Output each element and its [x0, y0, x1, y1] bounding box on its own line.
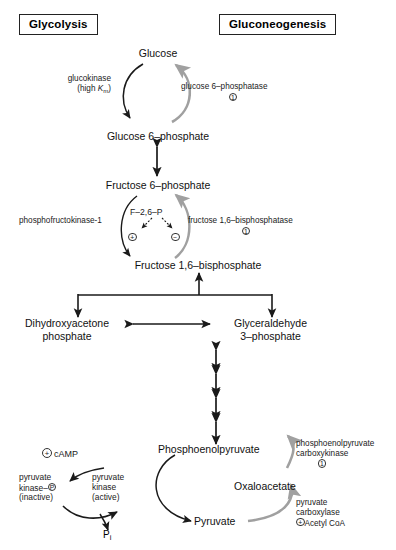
pathway-diagram: Glycolysis Gluconeogenesis Glucose Gluco… [0, 0, 396, 550]
metabolite-pyruvate: Pyruvate [194, 515, 235, 527]
phosphate-circle-icon: P [48, 483, 57, 492]
enzyme-number-circle-icon: 1 [242, 227, 251, 236]
pep-to-pyruvate-glycolysis-arrow [156, 455, 191, 521]
plus-circle-icon: + [128, 233, 137, 242]
enzyme-pyruvate-kinase-active: pyruvate kinase (active) [92, 473, 154, 503]
dhap-line-2: phosphate [12, 330, 122, 343]
glucokinase-line-2: (high Km) [28, 84, 111, 95]
glycolysis-header-box: Glycolysis [19, 14, 98, 35]
pi-symbol: P [103, 529, 110, 540]
enzyme-glucokinase: glucokinase (high Km) [28, 74, 111, 95]
metabolite-dihydroxyacetone-phosphate: Dihydroxyacetone phosphate [12, 317, 122, 342]
gluconeogenesis-header-box: Gluconeogenesis [219, 14, 336, 35]
pyruvate-carboxylase-line-2: carboxylase [296, 508, 392, 518]
metabolite-glucose: Glucose [0, 47, 316, 59]
enzyme-number-circle-icon: 1 [318, 459, 327, 468]
enzyme-pepck: phosphoenolpyruvate carboxykinase 1 [296, 439, 392, 470]
pk-dephosphorylation-arrow [63, 506, 117, 518]
metabolite-oxaloacetate: Oxaloacetate [234, 480, 296, 492]
fbpase-marker-wrap: 1 [188, 227, 328, 237]
metabolite-phosphoenolpyruvate: Phosphoenolpyruvate [158, 443, 260, 455]
metabolite-glucose-6-phosphate: Glucose 6–phosphate [0, 130, 316, 142]
regulator-f-2-6-p: F–2,6–P [130, 207, 163, 217]
pyruvate-carboxylase-line-1: pyruvate [296, 498, 392, 508]
enzyme-pyruvate-kinase-inactive: pyruvate kinase–P (inactive) [19, 473, 81, 503]
dhap-line-1: Dihydroxyacetone [12, 317, 122, 330]
pk-inactive-kinase-text: kinase– [19, 482, 48, 492]
pk-active-line-3: (active) [92, 493, 154, 503]
gap-line-1: Glyceraldehyde [218, 317, 323, 330]
metabolite-inorganic-phosphate: Pi [103, 529, 111, 543]
glycolysis-title: Glycolysis [29, 18, 88, 30]
f26p-inhibition-sign: − [171, 226, 180, 245]
glucokinase-km-suffix: ) [108, 84, 111, 93]
enzyme-pyruvate-carboxylase: pyruvate carboxylase +Acetyl CoA [296, 498, 392, 528]
enzyme-phosphofructokinase-1: phosphofructokinase-1 [19, 216, 102, 226]
enzyme-fructose-1-6-bisphosphatase: fructose 1,6–bisphosphatase 1 [188, 216, 328, 237]
enzyme-glucose-6-phosphatase: glucose 6–phosphatase 1 [181, 82, 301, 103]
regulator-camp: +cAMP [42, 448, 78, 459]
pi-subscript: i [110, 533, 112, 542]
plus-circle-icon: + [296, 518, 305, 527]
oxaloacetate-to-pep-arrow [287, 436, 294, 468]
glucose-6-phosphatase-marker-wrap: 1 [181, 93, 301, 103]
camp-label: cAMP [54, 449, 78, 459]
glucose-6-phosphatase-label: glucose 6–phosphatase [181, 82, 301, 92]
acetyl-coa-label: Acetyl CoA [305, 518, 346, 527]
fbp-aldolase-branch [78, 273, 272, 317]
pepck-line-1: phosphoenolpyruvate [296, 439, 392, 449]
pyruvate-carboxylase-effector-line: +Acetyl CoA [296, 518, 392, 528]
gap-line-2: 3–phosphate [218, 330, 323, 343]
metabolite-fructose-1-6-bisphosphate: Fructose 1,6–bisphosphate [0, 259, 396, 271]
glucose-to-g6p-glycolysis-arrow [123, 64, 143, 118]
pk-inactive-line-3: (inactive) [19, 493, 81, 503]
glucokinase-line-1: glucokinase [28, 74, 111, 84]
fbpase-label: fructose 1,6–bisphosphatase [188, 216, 328, 226]
metabolite-glyceraldehyde-3-phosphate: Glyceraldehyde 3–phosphate [218, 317, 323, 342]
pepck-line-2: carboxykinase [296, 449, 392, 459]
glucokinase-km-prefix: (high [77, 84, 97, 93]
pk-inactive-line-1: pyruvate [19, 473, 81, 483]
enzyme-number-circle-icon: 1 [229, 93, 238, 102]
gluconeogenesis-title: Gluconeogenesis [229, 18, 326, 30]
f26p-activation-sign: + [128, 226, 137, 245]
minus-circle-icon: − [171, 233, 180, 242]
f26p-activation-dashed-arrow [142, 218, 152, 228]
plus-circle-icon: + [42, 448, 52, 458]
pepck-marker-wrap: 1 [296, 459, 392, 469]
metabolite-fructose-6-phosphate: Fructose 6–phosphate [0, 179, 316, 191]
